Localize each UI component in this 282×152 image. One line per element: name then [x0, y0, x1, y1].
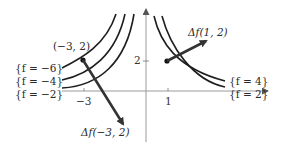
gradient-label-1-2: Δf(1, 2) [188, 27, 228, 38]
level-label-f-neg6-text: {f = −6} [15, 62, 63, 74]
point-label-neg3-2: (−3, 2) [53, 41, 90, 52]
level-label-f-neg2-text: {f = −2} [15, 88, 63, 100]
y-tick-label-2: 2 [134, 55, 141, 66]
level-curve-diagram: (−3, 2) {f = −6} {f = −4} {f = −2} {f = … [0, 0, 282, 152]
level-label-f-neg2: {f = −2} [15, 89, 63, 100]
x-tick-label-neg3: −3 [76, 96, 91, 107]
level-label-f-2-text: {f = 2} [229, 88, 268, 100]
level-label-f-neg4: {f = −4} [15, 76, 63, 87]
level-label-f-neg4-text: {f = −4} [15, 75, 63, 87]
level-label-f-neg6: {f = −6} [15, 63, 63, 74]
gradient-label-neg3-2: Δf(−3, 2) [81, 127, 130, 138]
gradient-arrow-neg3-2 [83, 60, 123, 124]
level-label-f-2: {f = 2} [229, 89, 268, 100]
level-label-f-4-text: {f = 4} [229, 75, 268, 87]
x-tick-label-1: 1 [165, 96, 172, 107]
level-label-f-4: {f = 4} [229, 76, 268, 87]
